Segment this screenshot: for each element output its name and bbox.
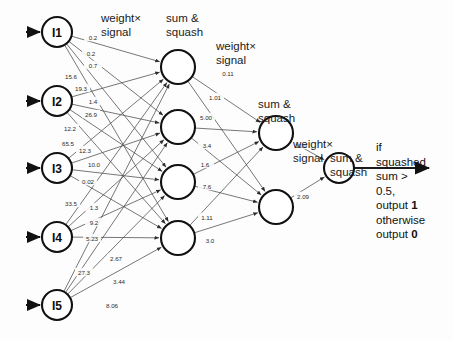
edge-in2-h4	[67, 112, 165, 224]
node-label-i4: I4	[52, 231, 62, 245]
weight-label-1: 0.2	[87, 50, 96, 57]
node-i1: I1	[42, 17, 72, 47]
weight-label-22: 5.00	[200, 114, 213, 121]
weight-label-13: 1.3	[90, 204, 99, 211]
weight-label-3: 15.6	[65, 73, 78, 80]
node-circle-h4	[161, 221, 195, 255]
node-circle-h1	[161, 50, 195, 84]
output-rule-line: otherwise	[376, 213, 426, 228]
node-h4	[161, 221, 195, 255]
weight-label-5: 1.4	[89, 98, 98, 105]
weight-label-17: 2.67	[110, 255, 123, 262]
output-rule-line: if	[376, 140, 426, 155]
weight-label-10: 10.0	[88, 161, 101, 168]
weight-label-7: 12.2	[64, 125, 77, 132]
weight-label-27: 3.0	[206, 237, 215, 244]
weight-label-25: 7.6	[203, 183, 212, 190]
weight-label-2: 0.7	[89, 62, 98, 69]
output-rule-line: output 1	[376, 198, 426, 213]
weight-label-21: 1.01	[209, 94, 222, 101]
weight-label-23: 3.4	[203, 142, 212, 149]
heading-weight-signal-3: weight× signal	[293, 138, 333, 165]
node-h3	[161, 165, 195, 199]
weight-label-19: 8.06	[106, 302, 119, 309]
node-label-i1: I1	[52, 26, 62, 40]
weight-label-6: 26.9	[85, 111, 98, 118]
node-circle-h2	[161, 110, 195, 144]
weight-label-12: 33.5	[65, 200, 78, 207]
output-rule-line: 0.5,	[376, 184, 426, 199]
weight-label-0: 0.2	[89, 34, 98, 41]
neural-network-diagram: I1I2I3I4I5 0.20.20.715.619.31.426.912.26…	[0, 0, 453, 341]
weight-label-9: 12.3	[79, 147, 92, 154]
node-label-i2: I2	[52, 95, 62, 109]
output-rule-line: output 0	[376, 227, 426, 242]
output-rule-text: ifsquashedsum >0.5,output 1otherwiseoutp…	[376, 140, 426, 242]
weight-label-18: 3.44	[113, 278, 126, 285]
node-label-i3: I3	[52, 162, 62, 176]
node-i5: I5	[42, 290, 72, 320]
edge-in4-h3	[71, 190, 161, 231]
edge-h1-g2	[188, 81, 265, 192]
weight-label-11: 0.02	[82, 178, 95, 185]
output-rule-line: sum >	[376, 169, 426, 184]
heading-sum-squash-2: sum & squash	[258, 98, 295, 125]
weight-label-4: 19.3	[75, 85, 88, 92]
weight-label-16: 27.3	[78, 269, 91, 276]
weight-label-14: 9.2	[90, 219, 99, 226]
heading-weight-signal-1: weight× signal	[101, 12, 141, 39]
edge-in1-h4	[65, 45, 169, 222]
node-i3: I3	[42, 153, 72, 183]
heading-sum-squash-1: sum & squash	[166, 12, 203, 39]
node-circle-g2	[259, 190, 293, 224]
node-h1	[161, 50, 195, 84]
heading-sum-squash-3: sum & squash	[330, 152, 367, 179]
node-circle-h3	[161, 165, 195, 199]
weight-label-20: 0.11	[222, 70, 234, 77]
weight-label-8: 65.5	[62, 140, 75, 147]
heading-weight-signal-2: weight× signal	[216, 40, 256, 67]
weight-label-15: 5.23	[86, 235, 99, 242]
node-h2	[161, 110, 195, 144]
node-g2	[259, 190, 293, 224]
weight-label-26: 1.11	[201, 214, 213, 221]
weight-label-29: 2.09	[297, 193, 310, 200]
node-i2: I2	[42, 86, 72, 116]
node-i4: I4	[42, 222, 72, 252]
node-label-i5: I5	[52, 299, 62, 313]
edge-h2-g1	[195, 128, 257, 132]
output-rule-line: squashed	[376, 155, 426, 170]
weight-label-24: 1.6	[201, 161, 210, 168]
